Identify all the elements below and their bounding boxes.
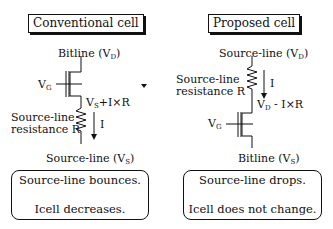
left-result-line-1: Source-line bounces. (12, 174, 148, 187)
right-node-voltage: VD - I×R (257, 99, 303, 114)
right-current-label: I (270, 78, 274, 90)
right-bitline-label: Bitline (VS) (238, 153, 299, 168)
conventional-cell-title: Conventional cell (28, 14, 144, 33)
left-current-label: I (100, 119, 104, 131)
right-result-box: Source-line drops. Icell does not change… (183, 170, 322, 220)
right-gate-label: VG (208, 118, 222, 133)
left-result-line-2: Icell decreases. (12, 203, 148, 216)
proposed-cell-title: Proposed cell (208, 14, 300, 33)
left-resistor (76, 98, 86, 144)
right-transistor (242, 104, 252, 148)
left-gate-label: VG (38, 79, 52, 94)
left-sourceline-label: Source-line (VS) (46, 153, 134, 168)
left-node-voltage: VS+I×R (86, 97, 130, 112)
left-resistance-label-2: resistance R (11, 124, 80, 136)
right-resistance-label-2: resistance R (176, 86, 245, 98)
right-sourceline-top-label: Source-line (VD) (219, 48, 308, 63)
right-result-line-1: Source-line drops. (184, 174, 321, 187)
left-result-box: Source-line bounces. Icell decreases. (11, 170, 149, 220)
right-resistor (247, 56, 257, 104)
right-result-line-2: Icell does not change. (184, 203, 321, 216)
left-bitline-label: Bitline (VD) (58, 48, 120, 63)
